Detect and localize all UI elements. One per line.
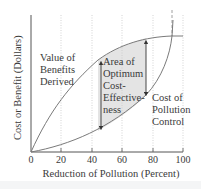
benefits-line-2: Benefits: [40, 64, 75, 75]
cost-annotation: Cost of Pollution Control: [152, 92, 191, 127]
optimum-line-2: Optimum: [103, 68, 143, 79]
x-tick-80: 80: [148, 154, 158, 165]
x-axis-label: Reduction of Pollution (Percent): [43, 168, 180, 180]
x-tick-labels: 0 20 40 60 80 100: [29, 154, 191, 165]
x-tick-60: 60: [117, 154, 127, 165]
cost-line-1: Cost of: [152, 92, 183, 103]
benefits-line-1: Value of: [40, 52, 76, 63]
cost-line-3: Control: [152, 116, 184, 127]
x-tick-100: 100: [176, 154, 191, 165]
cost-line-2: Pollution: [152, 104, 191, 115]
benefits-line-3: Derived: [40, 76, 75, 87]
x-tick-20: 20: [56, 154, 66, 165]
x-tick-0: 0: [29, 154, 34, 165]
x-tick-marks: [61, 148, 183, 152]
x-tick-40: 40: [87, 154, 97, 165]
pollution-cost-benefit-diagram: Cost or Benefit (Dollars) 0 20 40 60 80 …: [0, 0, 201, 189]
y-axis-label: Cost or Benefit (Dollars): [12, 35, 24, 140]
optimum-line-1: Area of: [103, 56, 135, 67]
optimum-line-5: ness: [103, 104, 121, 115]
benefits-annotation: Value of Benefits Derived: [40, 52, 76, 87]
bottom-band: [0, 181, 201, 189]
optimum-line-3: Cost-: [103, 80, 126, 91]
optimum-line-4: Effective-: [103, 92, 145, 103]
